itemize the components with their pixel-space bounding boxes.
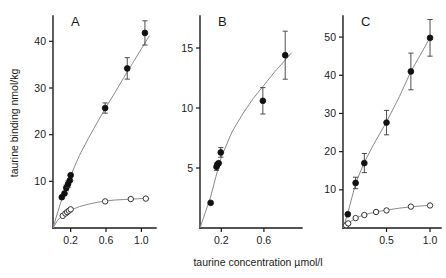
series-C-0 [345,20,433,218]
x-axis-title: taurine concentration µmol/l [193,256,322,268]
filled-circle-point-C-0-4 [408,69,414,75]
x-tick-label-B-0: 0.2 [214,234,229,246]
panel-letter-B: B [218,14,227,29]
x-tick-label-A-1: 0.6 [99,234,114,246]
y-tick-label-C-1: 20 [324,145,336,157]
open-circle-point-A-1-7 [143,196,148,201]
open-circle-point-C-1-3 [362,212,367,217]
panel-A: 102030400.20.61.0A [34,14,156,246]
y-tick-label-C-4: 50 [324,31,336,43]
y-tick-label-B-0: 5 [187,162,193,174]
x-tick-label-C-0: 0.5 [379,234,394,246]
y-tick-label-A-0: 10 [34,175,46,187]
open-circle-point-A-1-6 [128,196,133,201]
open-circle-point-C-1-5 [384,208,389,213]
filled-circle-point-C-0-0 [345,211,351,217]
y-tick-label-C-3: 40 [324,69,336,81]
filled-circle-point-C-0-3 [384,120,390,126]
y-tick-label-C-0: 10 [324,183,336,195]
series-A-0 [59,21,148,200]
y-tick-label-A-1: 20 [34,128,46,140]
filled-circle-point-C-0-1 [353,180,359,186]
open-circle-point-C-1-2 [353,215,358,220]
x-tick-label-B-1: 0.6 [257,234,272,246]
open-circle-point-C-1-6 [408,204,413,209]
y-tick-label-B-1: 10 [181,102,193,114]
y-tick-label-B-2: 15 [181,42,193,54]
open-circle-point-A-1-4 [68,207,73,212]
y-tick-label-A-3: 40 [34,35,46,47]
filled-circle-point-C-0-2 [361,160,367,166]
filled-circle-point-B-0-3 [216,160,222,166]
panel-B: 510150.20.6B [181,14,302,246]
filled-circle-point-A-0-1 [62,191,68,197]
filled-circle-point-B-0-0 [208,200,214,206]
filled-circle-point-B-0-5 [260,98,266,104]
y-axis-title: taurine binding nmol/kg [8,69,20,178]
open-circle-point-C-1-1 [346,221,351,226]
open-circle-point-C-1-4 [373,209,378,214]
filled-circle-point-B-0-6 [282,52,288,58]
x-tick-label-C-1: 1.0 [423,234,438,246]
panel-C: 10203040500.51.0C [324,14,441,246]
x-tick-label-A-2: 1.0 [134,234,149,246]
y-tick-label-C-2: 30 [324,107,336,119]
figure-svg: 102030400.20.61.0A510150.20.6B1020304050… [0,0,446,278]
y-tick-label-A-2: 30 [34,82,46,94]
filled-circle-point-A-0-8 [142,30,148,36]
filled-circle-point-A-0-5 [68,172,74,178]
filled-circle-point-C-0-5 [427,35,433,41]
filled-circle-point-A-0-7 [124,66,130,72]
panel-letter-C: C [361,14,370,29]
filled-circle-point-B-0-4 [218,150,224,156]
panel-letter-A: A [71,14,80,29]
x-tick-label-A-0: 0.2 [63,234,78,246]
figure-container: 102030400.20.61.0A510150.20.6B1020304050… [0,0,446,278]
filled-circle-point-A-0-6 [102,105,108,111]
series-B-0 [208,31,288,206]
open-circle-point-C-1-7 [427,203,432,208]
open-circle-point-A-1-5 [102,199,107,204]
